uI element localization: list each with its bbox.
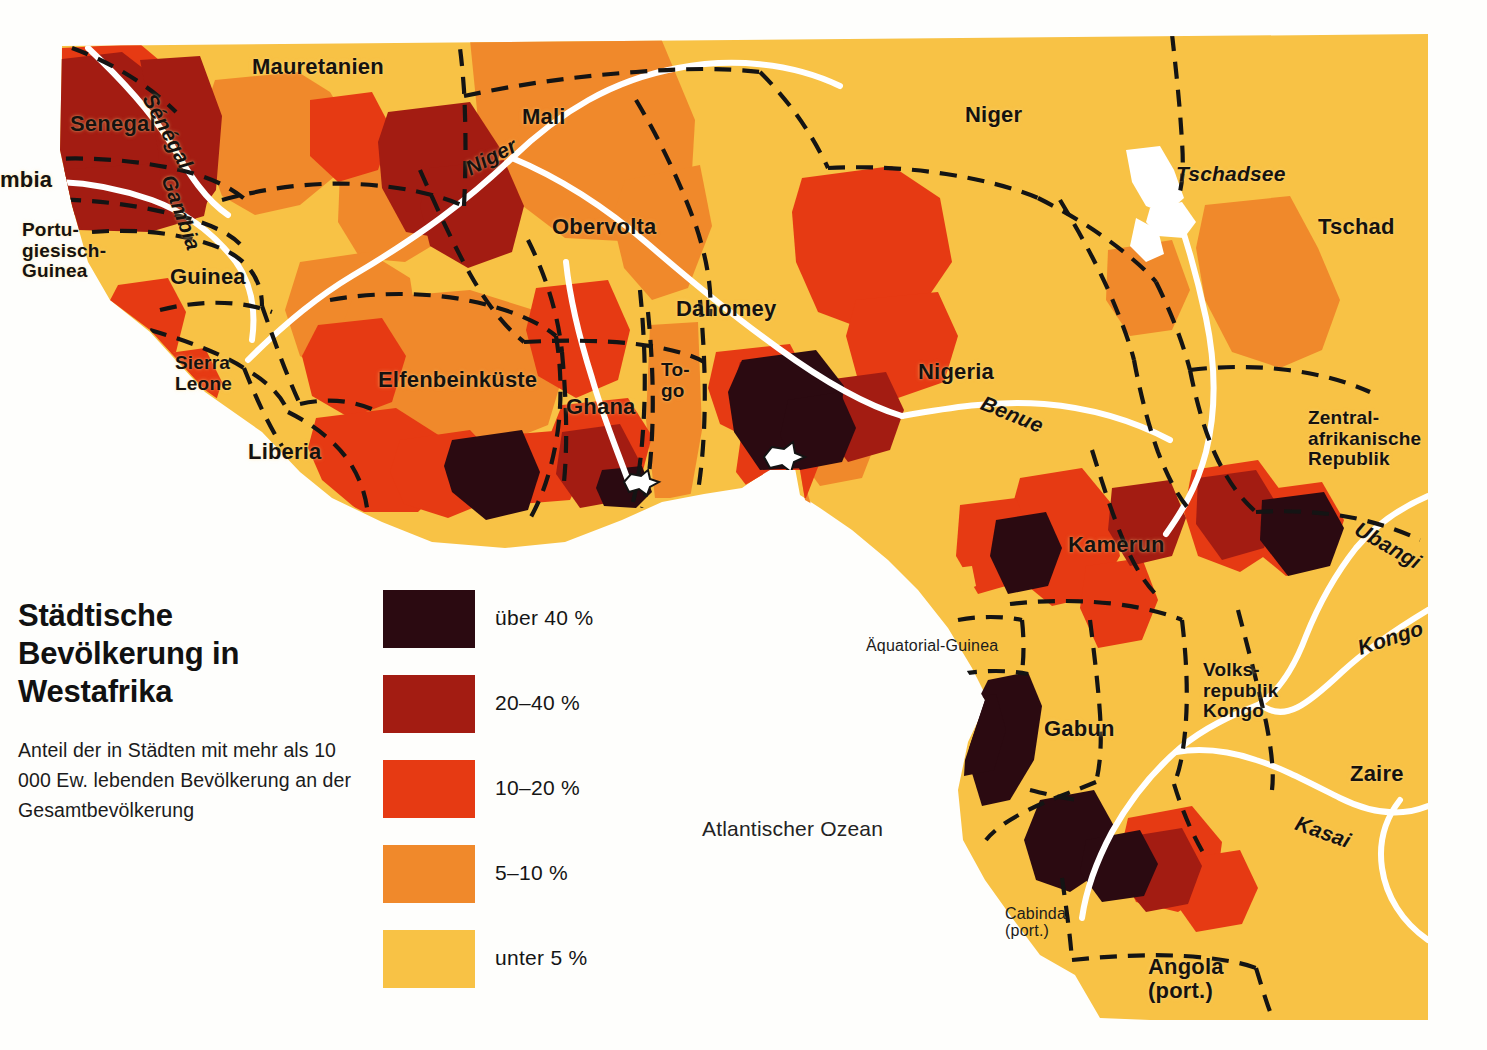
ocean-label: Atlantischer Ozean — [702, 818, 883, 841]
country-label-cabinda-port: Cabinda (port.) — [1005, 905, 1066, 940]
country-label-dahomey: Dahomey — [676, 297, 776, 321]
country-label-guinea: Guinea — [170, 265, 246, 289]
country-label-tschad: Tschad — [1318, 215, 1395, 239]
water-label-tschadsee: Tschadsee — [1176, 163, 1286, 186]
map-subtitle: Anteil der in Städten mit mehr als 10 00… — [18, 736, 358, 825]
page-title: Städtische Bevölkerung in Westafrika — [18, 597, 358, 710]
country-label-äquatorial-guinea: Äquatorial-Guinea — [866, 637, 998, 654]
country-label-nigeria: Nigeria — [918, 360, 994, 384]
country-label-mbia: mbia — [0, 168, 52, 192]
legend-swatch-under-5 — [383, 930, 475, 988]
country-label-liberia: Liberia — [248, 440, 322, 464]
map-figure: MauretanienSenegalmbiaPortu- giesisch- G… — [0, 0, 1487, 1050]
country-label-elfenbeinküste: Elfenbeinküste — [378, 368, 537, 392]
country-label-mali: Mali — [522, 105, 566, 129]
country-label-senegal: Senegal — [70, 112, 156, 136]
country-label-kamerun: Kamerun — [1068, 533, 1165, 557]
country-label-volks-republik-kongo: Volks- republik Kongo — [1203, 660, 1279, 722]
legend-label-20-40: 20–40 % — [495, 691, 580, 715]
legend-label-5-10: 5–10 % — [495, 861, 568, 885]
country-label-gabun: Gabun — [1044, 717, 1115, 741]
legend-swatch-5-10 — [383, 845, 475, 903]
country-label-portu-giesisch-guinea: Portu- giesisch- Guinea — [22, 220, 106, 282]
map-canvas — [0, 0, 1487, 1050]
country-label-zentral-afrikanische-republik: Zentral- afrikanische Republik — [1308, 408, 1421, 470]
legend-swatch-over-40 — [383, 590, 475, 648]
country-label-obervolta: Obervolta — [552, 215, 657, 239]
country-label-zaire: Zaire — [1350, 762, 1404, 786]
legend-label-under-5: unter 5 % — [495, 946, 588, 970]
country-label-niger: Niger — [965, 103, 1022, 127]
legend-label-over-40: über 40 % — [495, 606, 593, 630]
country-label-to-go: To- go — [661, 360, 690, 401]
country-label-sierra-leone: Sierra Leone — [175, 353, 232, 394]
title-block: Städtische Bevölkerung in Westafrika Ant… — [18, 597, 358, 825]
legend-swatch-20-40 — [383, 675, 475, 733]
country-label-angola-port: Angola (port.) — [1148, 955, 1224, 1003]
country-label-ghana: Ghana — [566, 395, 635, 419]
legend-swatch-10-20 — [383, 760, 475, 818]
legend-label-10-20: 10–20 % — [495, 776, 580, 800]
country-label-mauretanien: Mauretanien — [252, 55, 384, 79]
